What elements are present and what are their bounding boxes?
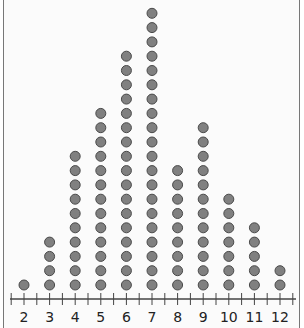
- data-dot: [224, 194, 234, 204]
- data-dot: [198, 180, 208, 190]
- x-tick-label: 7: [148, 309, 157, 325]
- data-dot: [147, 137, 157, 147]
- data-dot: [249, 280, 259, 290]
- data-dot: [70, 166, 80, 176]
- data-dot: [173, 223, 183, 233]
- data-dot: [275, 266, 285, 276]
- data-dot: [96, 280, 106, 290]
- data-dot: [275, 280, 285, 290]
- data-dot: [173, 266, 183, 276]
- data-dot: [173, 280, 183, 290]
- data-dot: [147, 237, 157, 247]
- data-dot: [121, 123, 131, 133]
- data-dot: [173, 166, 183, 176]
- x-tick-label: 12: [271, 309, 289, 325]
- data-dot: [121, 80, 131, 90]
- data-dot: [198, 137, 208, 147]
- data-dot: [96, 137, 106, 147]
- data-dot: [121, 108, 131, 118]
- data-dot: [147, 80, 157, 90]
- data-dot: [147, 194, 157, 204]
- data-dot: [173, 194, 183, 204]
- data-dot: [96, 209, 106, 219]
- data-dot: [70, 251, 80, 261]
- data-dot: [147, 166, 157, 176]
- data-dot: [70, 280, 80, 290]
- data-dot: [70, 194, 80, 204]
- data-dot: [121, 280, 131, 290]
- data-dot: [121, 266, 131, 276]
- data-dot: [96, 108, 106, 118]
- data-dot: [70, 151, 80, 161]
- dots-layer: [19, 8, 285, 290]
- data-dot: [70, 223, 80, 233]
- data-dot: [198, 209, 208, 219]
- data-dot: [96, 237, 106, 247]
- x-tick-label: 8: [173, 309, 182, 325]
- data-dot: [147, 151, 157, 161]
- data-dot: [198, 280, 208, 290]
- x-tick-label: 6: [122, 309, 131, 325]
- x-tick-label: 9: [199, 309, 208, 325]
- data-dot: [70, 237, 80, 247]
- data-dot: [224, 280, 234, 290]
- data-dot: [224, 251, 234, 261]
- data-dot: [70, 266, 80, 276]
- data-dot: [147, 108, 157, 118]
- x-axis-labels: 23456789101112: [20, 309, 289, 325]
- data-dot: [121, 66, 131, 76]
- data-dot: [198, 251, 208, 261]
- x-tick-label: 5: [96, 309, 105, 325]
- data-dot: [121, 180, 131, 190]
- x-tick-label: 11: [245, 309, 263, 325]
- data-dot: [173, 251, 183, 261]
- data-dot: [249, 266, 259, 276]
- dot-plot: 23456789101112: [0, 0, 304, 328]
- data-dot: [96, 123, 106, 133]
- data-dot: [45, 251, 55, 261]
- data-dot: [173, 237, 183, 247]
- data-dot: [173, 180, 183, 190]
- data-dot: [147, 51, 157, 61]
- data-dot: [19, 280, 29, 290]
- data-dot: [121, 51, 131, 61]
- x-tick-label: 3: [45, 309, 54, 325]
- data-dot: [147, 23, 157, 33]
- data-dot: [224, 237, 234, 247]
- x-tick-label: 2: [20, 309, 29, 325]
- data-dot: [96, 223, 106, 233]
- data-dot: [45, 280, 55, 290]
- data-dot: [198, 266, 208, 276]
- data-dot: [96, 151, 106, 161]
- data-dot: [70, 180, 80, 190]
- x-tick-label: 10: [220, 309, 238, 325]
- data-dot: [173, 209, 183, 219]
- data-dot: [147, 266, 157, 276]
- data-dot: [147, 180, 157, 190]
- data-dot: [224, 266, 234, 276]
- data-dot: [249, 251, 259, 261]
- data-dot: [198, 194, 208, 204]
- data-dot: [121, 194, 131, 204]
- data-dot: [121, 166, 131, 176]
- data-dot: [96, 251, 106, 261]
- data-dot: [147, 94, 157, 104]
- data-dot: [121, 251, 131, 261]
- data-dot: [96, 194, 106, 204]
- data-dot: [70, 209, 80, 219]
- data-dot: [121, 209, 131, 219]
- data-dot: [198, 151, 208, 161]
- data-dot: [147, 280, 157, 290]
- data-dot: [147, 223, 157, 233]
- x-tick-label: 4: [71, 309, 80, 325]
- data-dot: [96, 266, 106, 276]
- data-dot: [45, 266, 55, 276]
- data-dot: [249, 223, 259, 233]
- data-dot: [121, 223, 131, 233]
- data-dot: [96, 180, 106, 190]
- data-dot: [224, 223, 234, 233]
- data-dot: [121, 151, 131, 161]
- data-dot: [198, 166, 208, 176]
- data-dot: [121, 237, 131, 247]
- data-dot: [147, 37, 157, 47]
